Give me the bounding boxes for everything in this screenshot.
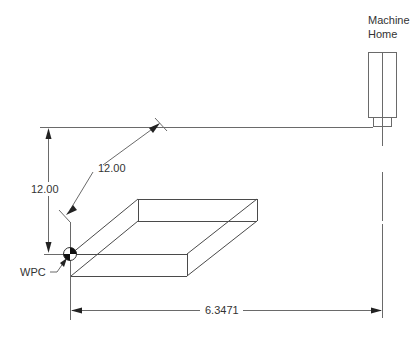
- wpc-quadrant-bottom-left: [64, 254, 71, 261]
- diagonal-dimension: 12.00: [59, 118, 167, 222]
- machine-home-label-line2: Home: [368, 28, 397, 40]
- block-bottom-right-edge: [187, 221, 257, 276]
- wpc-symbol: [64, 248, 77, 261]
- vertical-dimension-arrow-bottom: [46, 242, 52, 253]
- horizontal-dimension-label: 6.3471: [205, 304, 239, 316]
- horizontal-dimension-arrow-right: [371, 308, 382, 314]
- machining-diagram: Machine Home 12.00 12.00: [0, 0, 414, 337]
- diagonal-dimension-line-upper: [103, 127, 155, 165]
- vertical-dimension: 12.00: [30, 128, 66, 253]
- block-left-bottom-edge: [71, 221, 138, 276]
- diagonal-dimension-label: 12.00: [98, 162, 126, 174]
- vertical-dimension-arrow-top: [46, 128, 52, 139]
- horizontal-dimension-arrow-left: [71, 308, 82, 314]
- wpc-quadrant-top-right: [70, 248, 77, 255]
- vertical-dimension-label: 12.00: [31, 183, 59, 195]
- machine-spindle: [369, 52, 397, 146]
- diagonal-dimension-arrow-bottom: [66, 205, 77, 215]
- wpc-label: WPC: [20, 266, 46, 278]
- wpc-leader: WPC: [20, 258, 67, 278]
- block-top-right-edge: [187, 199, 257, 254]
- machine-home-label-line1: Machine: [368, 14, 410, 26]
- diagonal-dimension-line-lower: [70, 172, 93, 210]
- workpiece-block: [71, 199, 258, 277]
- block-top-left-edge: [71, 199, 138, 254]
- horizontal-dimension: 6.3471: [71, 304, 382, 316]
